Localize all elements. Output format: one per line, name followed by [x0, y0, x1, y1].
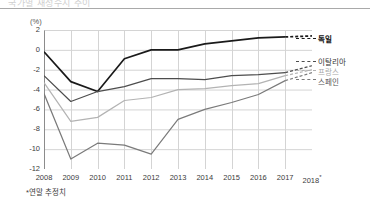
chart-svg [44, 30, 312, 169]
y-tick-label: 2 [14, 26, 40, 34]
y-tick-label: -2 [14, 66, 40, 74]
y-tick-label: -12 [14, 165, 40, 173]
series-line-dashed [285, 36, 312, 37]
legend-item-spain: 스페인 [318, 79, 339, 87]
legend-dash-spain [296, 79, 316, 80]
y-tick-label: -10 [14, 145, 40, 153]
legend-dash-germany [296, 38, 316, 39]
y-tick-label: -6 [14, 105, 40, 113]
x-tick-label: 2018* [295, 174, 329, 184]
legend-item-germany: 독일 [318, 36, 332, 44]
top-divider [0, 8, 370, 9]
page-header-cutoff: 국가별 재정수지 추이 [8, 0, 288, 7]
chart-footnote: *연말 추정치 [26, 186, 66, 197]
y-tick-label: -8 [14, 125, 40, 133]
chart-plot-area [44, 30, 312, 169]
estimate-marker: * [319, 174, 321, 180]
y-tick-label: 0 [14, 46, 40, 54]
legend-dash-france [296, 70, 316, 71]
legend-item-france: 프랑스 [318, 69, 339, 77]
y-tick-label: -4 [14, 86, 40, 94]
series-line-solid [44, 37, 285, 92]
legend-dash-italy [296, 61, 316, 62]
legend-item-italy: 이탈리아 [318, 59, 346, 67]
